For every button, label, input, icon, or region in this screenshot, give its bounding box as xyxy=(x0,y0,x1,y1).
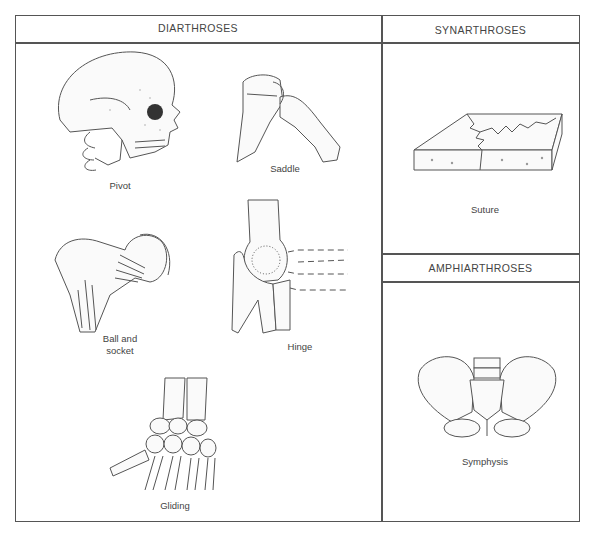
elbow-hinge-illustration xyxy=(228,200,378,335)
pelvis-illustration xyxy=(412,350,562,440)
label-ball-and-socket-line2: socket xyxy=(106,345,133,356)
label-gliding: Gliding xyxy=(150,500,200,512)
label-hinge: Hinge xyxy=(275,341,325,353)
hip-femur-illustration xyxy=(50,220,180,335)
label-symphysis: Symphysis xyxy=(450,456,520,468)
label-pivot: Pivot xyxy=(95,180,145,192)
label-ball-and-socket: Ball and socket xyxy=(95,333,145,357)
amphiarthroses-header-divider xyxy=(381,281,580,283)
label-ball-and-socket-line1: Ball and xyxy=(103,333,137,344)
wrist-carpals-illustration xyxy=(105,378,240,493)
header-synarthroses: SYNARTHROSES xyxy=(381,24,580,36)
label-saddle: Saddle xyxy=(260,163,310,175)
label-suture: Suture xyxy=(455,204,515,216)
suture-block-illustration xyxy=(412,110,562,185)
thumb-saddle-joint-illustration xyxy=(225,72,355,167)
header-diarthroses: DIARTHROSES xyxy=(15,22,381,34)
header-amphiarthroses: AMPHIARTHROSES xyxy=(381,262,580,274)
header-divider xyxy=(15,42,580,44)
right-section-divider xyxy=(381,253,580,255)
skull-neck-illustration xyxy=(50,50,210,180)
